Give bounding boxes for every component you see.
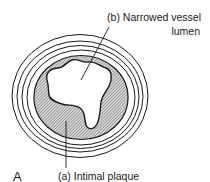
label-intimal-plaque: (a) Intimal plaque <box>58 170 139 182</box>
label-narrowed-vessel-lumen-line1: (b) Narrowed vessel <box>107 11 201 23</box>
panel-letter: A <box>13 169 22 182</box>
label-narrowed-vessel-lumen-line2: lumen <box>171 25 200 37</box>
artery-cross-section-diagram: (b) Narrowed vessel lumen (a) Intimal pl… <box>0 0 210 182</box>
